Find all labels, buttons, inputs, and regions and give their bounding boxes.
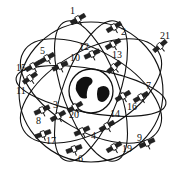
satellite-label: 1 bbox=[70, 6, 75, 16]
satellite-label: 13 bbox=[112, 50, 122, 60]
satellite-label: 9 bbox=[137, 133, 142, 143]
satellite-label: 10 bbox=[70, 53, 80, 63]
satellite-label: 3 bbox=[53, 100, 58, 110]
satellite-label: 4 bbox=[91, 131, 96, 141]
satellite-label: 7 bbox=[146, 81, 151, 91]
satellite-label: 6 bbox=[78, 154, 83, 164]
satellite-label: 17 bbox=[46, 136, 56, 146]
satellite-label: 8 bbox=[36, 116, 41, 126]
gps-constellation-diagram bbox=[0, 0, 183, 183]
satellite-label: 14 bbox=[110, 109, 120, 119]
satellite-label: 15 bbox=[16, 63, 26, 73]
satellite-label: 16 bbox=[127, 102, 137, 112]
satellite-label: 12 bbox=[79, 42, 89, 52]
satellite-label: 5 bbox=[40, 46, 45, 56]
satellite-label: 2 bbox=[121, 27, 126, 37]
satellite-icon bbox=[152, 39, 171, 57]
satellite-label: 20 bbox=[69, 110, 79, 120]
satellite-icon bbox=[50, 109, 69, 126]
satellite-label: 11 bbox=[16, 86, 26, 96]
satellite-label: 21 bbox=[160, 31, 170, 41]
satellite-label: 19 bbox=[122, 144, 132, 154]
